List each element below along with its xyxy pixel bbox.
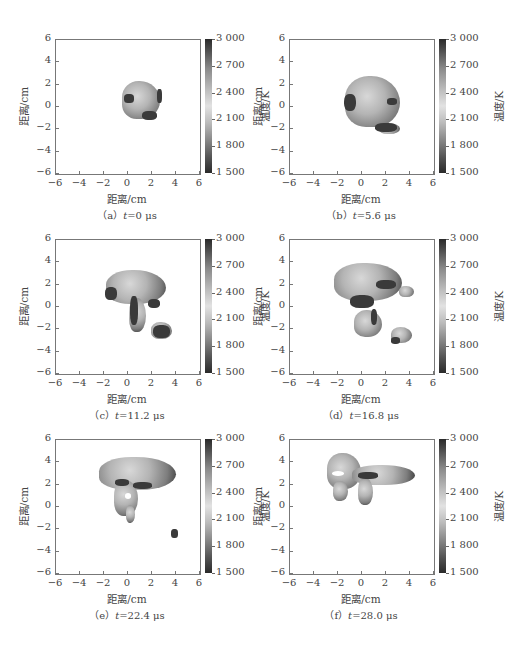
x-tick-label: −4 — [303, 377, 323, 388]
colorbar-tick-mark — [212, 493, 215, 494]
y-tick-mark — [56, 61, 59, 62]
temperature-region — [99, 457, 176, 491]
y-tick-label: −4 — [31, 344, 51, 355]
colorbar-label: 温度/K — [257, 482, 272, 532]
caption-time-value: =16.8 μs — [353, 410, 398, 421]
x-tick-label: −4 — [69, 577, 89, 588]
colorbar-tick-label: 2 100 — [450, 512, 479, 523]
caption-time-var: t — [348, 610, 352, 621]
x-tick-label: 4 — [165, 377, 185, 388]
x-tick-label: 6 — [189, 577, 209, 588]
x-tick-mark — [313, 171, 314, 174]
colorbar-tick-mark — [446, 319, 449, 320]
colorbar-tick-label: 1 500 — [216, 366, 245, 377]
y-tick-label: 2 — [265, 77, 285, 88]
x-tick-label: 6 — [423, 177, 443, 188]
x-tick-mark — [103, 571, 104, 574]
hot-spot — [332, 471, 344, 475]
x-tick-mark — [289, 171, 290, 174]
colorbar-tick-mark — [446, 546, 449, 547]
colorbar-tick-mark — [446, 173, 449, 174]
x-tick-mark — [55, 571, 56, 574]
x-tick-label: −6 — [45, 377, 65, 388]
panel-caption: （d）t=16.8 μs — [286, 407, 436, 422]
y-tick-mark — [56, 173, 59, 174]
low-temp-region — [133, 482, 152, 489]
x-tick-label: 0 — [117, 577, 137, 588]
colorbar-tick-mark — [446, 519, 449, 520]
y-tick-label: 2 — [265, 477, 285, 488]
y-tick-mark — [56, 506, 59, 507]
colorbar-tick-mark — [212, 173, 215, 174]
y-tick-mark — [290, 461, 293, 462]
y-tick-mark — [56, 484, 59, 485]
colorbar-tick-mark — [212, 293, 215, 294]
x-tick-label: −4 — [69, 177, 89, 188]
x-tick-mark — [151, 171, 152, 174]
y-tick-mark — [56, 551, 59, 552]
x-tick-mark — [385, 371, 386, 374]
colorbar-tick-label: 1 500 — [450, 366, 479, 377]
colorbar-tick-label: 3 000 — [216, 432, 245, 443]
panel-caption: （f）t=28.0 μs — [286, 607, 436, 622]
x-tick-label: 2 — [141, 177, 161, 188]
y-tick-label: 0 — [265, 499, 285, 510]
y-tick-label: −6 — [265, 566, 285, 577]
y-tick-mark — [290, 61, 293, 62]
temperature-region — [379, 123, 401, 134]
y-axis-label: 距离/cm — [250, 277, 265, 337]
x-tick-mark — [337, 571, 338, 574]
x-tick-mark — [79, 371, 80, 374]
x-tick-label: 0 — [351, 577, 371, 588]
colorbar-tick-mark — [212, 66, 215, 67]
x-tick-mark — [313, 371, 314, 374]
y-axis-label: 距离/cm — [250, 77, 265, 137]
colorbar-tick-mark — [212, 39, 215, 40]
plot-area — [289, 439, 435, 575]
x-tick-label: 6 — [189, 377, 209, 388]
low-temp-region — [124, 94, 134, 103]
heatmap-panel-c: 距离/cm 距离/cm 温度/K （c）t=11.2 μs 6420−2−4−6… — [0, 0, 512, 647]
y-tick-mark — [56, 328, 59, 329]
x-tick-mark — [127, 571, 128, 574]
x-tick-label: 2 — [375, 177, 395, 188]
heatmap-panel-f: 距离/cm 距离/cm 温度/K （f）t=28.0 μs 6420−2−4−6… — [0, 0, 512, 647]
x-tick-mark — [103, 371, 104, 374]
colorbar-tick-mark — [212, 466, 215, 467]
colorbar-tick-mark — [446, 573, 449, 574]
y-axis-label: 距离/cm — [16, 277, 31, 337]
x-tick-label: −2 — [327, 577, 347, 588]
colorbar — [205, 439, 212, 573]
y-tick-label: 6 — [265, 432, 285, 443]
caption-time-value: =0 μs — [127, 210, 157, 221]
y-tick-label: −4 — [31, 544, 51, 555]
caption-prefix: （f） — [324, 610, 348, 621]
x-tick-label: −2 — [93, 577, 113, 588]
caption-time-var: t — [349, 410, 353, 421]
y-tick-label: 6 — [31, 432, 51, 443]
colorbar-tick-label: 2 400 — [216, 286, 245, 297]
y-tick-mark — [290, 173, 293, 174]
x-tick-mark — [175, 571, 176, 574]
colorbar-tick-label: 2 100 — [450, 312, 479, 323]
colorbar-tick-mark — [446, 146, 449, 147]
y-tick-label: 6 — [265, 232, 285, 243]
low-temp-region — [171, 529, 178, 538]
colorbar-tick-mark — [212, 546, 215, 547]
x-tick-mark — [409, 571, 410, 574]
colorbar-label: 温度/K — [257, 82, 272, 132]
colorbar-tick-label: 1 800 — [216, 539, 245, 550]
colorbar — [205, 39, 212, 173]
colorbar-tick-mark — [212, 319, 215, 320]
x-tick-label: −6 — [279, 377, 299, 388]
low-temp-region — [391, 337, 401, 344]
x-axis-label: 距离/cm — [311, 191, 411, 206]
low-temp-region — [148, 299, 160, 308]
colorbar-label: 温度/K — [491, 282, 506, 332]
temperature-region — [114, 480, 138, 516]
panel-caption: （b）t=5.6 μs — [286, 207, 436, 222]
figure-caption-cutoff — [130, 640, 390, 647]
x-tick-label: −4 — [303, 577, 323, 588]
colorbar-tick-label: 2 100 — [450, 112, 479, 123]
temperature-region — [327, 453, 361, 489]
